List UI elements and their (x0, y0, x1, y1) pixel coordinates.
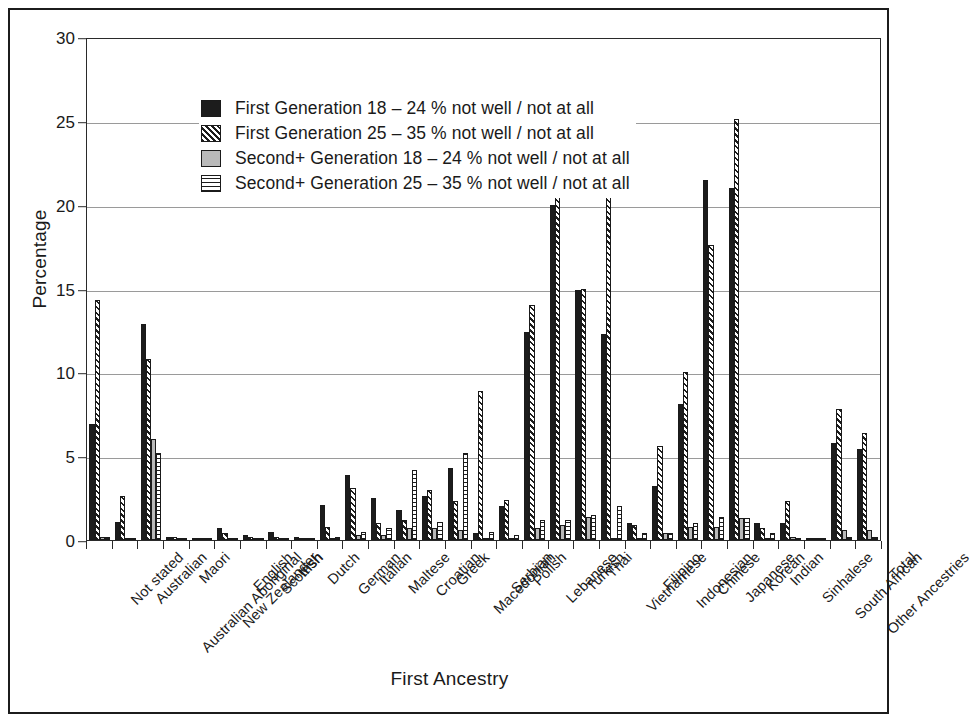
x-tick-mark (214, 541, 215, 549)
bar (617, 506, 622, 540)
bar (606, 143, 611, 540)
x-tick-mark (419, 541, 420, 549)
bar (386, 528, 391, 540)
legend-label: Second+ Generation 25 – 35 % not well / … (235, 173, 630, 194)
y-tick-label: 5 (17, 448, 87, 468)
x-tick-mark (445, 541, 446, 549)
chart-legend: First Generation 18 – 24 % not well / no… (199, 94, 636, 198)
bar (95, 300, 100, 540)
bar (361, 532, 366, 540)
x-tick-mark (599, 541, 600, 549)
bar (504, 500, 509, 540)
x-tick-mark (778, 541, 779, 549)
bar (310, 538, 315, 540)
bar (642, 533, 647, 540)
x-tick-mark (112, 541, 113, 549)
bar-group (675, 39, 701, 540)
x-tick-mark (881, 541, 882, 549)
bar (708, 245, 713, 540)
bar (591, 515, 596, 540)
bar-group (752, 39, 778, 540)
x-tick-mark (548, 541, 549, 549)
legend-swatch-second-gen-18-24 (201, 150, 221, 167)
bar (478, 391, 483, 540)
bar-group (854, 39, 880, 540)
y-tick-mark (78, 290, 87, 291)
bar (683, 372, 688, 540)
bar (284, 538, 289, 540)
bar (350, 488, 355, 540)
bar (693, 523, 698, 540)
bar (514, 535, 519, 540)
bar (412, 470, 417, 540)
plot-area: 051015202530 First Generation 18 – 24 % … (86, 38, 881, 541)
bar (719, 517, 724, 540)
x-tick-mark (573, 541, 574, 549)
bar (872, 537, 877, 540)
legend-item: Second+ Generation 18 – 24 % not well / … (201, 146, 630, 171)
y-tick-mark (78, 457, 87, 458)
bar (207, 538, 212, 540)
bar-group (726, 39, 752, 540)
x-tick-mark (189, 541, 190, 549)
bar (489, 532, 494, 540)
bar (529, 305, 534, 540)
x-tick-mark (676, 541, 677, 549)
bar (258, 538, 263, 540)
bar (836, 409, 841, 540)
x-tick-mark (830, 541, 831, 549)
x-tick-mark (753, 541, 754, 549)
x-tick-mark (701, 541, 702, 549)
y-tick-mark (78, 206, 87, 207)
legend-item: Second+ Generation 25 – 35 % not well / … (201, 171, 630, 196)
x-tick-mark (163, 541, 164, 549)
legend-item: First Generation 18 – 24 % not well / no… (201, 96, 630, 121)
bar-group (87, 39, 113, 540)
legend-label: Second+ Generation 18 – 24 % not well / … (235, 148, 630, 169)
bar (796, 538, 801, 540)
bar (182, 538, 187, 540)
x-tick-mark (855, 541, 856, 549)
x-tick-mark (137, 541, 138, 549)
bar-group (138, 39, 164, 540)
legend-label: First Generation 25 – 35 % not well / no… (235, 123, 594, 144)
bar (555, 169, 560, 540)
x-tick-mark (291, 541, 292, 549)
bar (862, 433, 867, 540)
y-axis-title: Percentage (29, 159, 51, 359)
bar (821, 538, 826, 540)
x-tick-mark (368, 541, 369, 549)
legend-item: First Generation 25 – 35 % not well / no… (201, 121, 630, 146)
bar (105, 537, 110, 540)
bar (565, 520, 570, 540)
x-tick-mark (240, 541, 241, 549)
x-tick-mark (86, 541, 87, 549)
bar (785, 501, 790, 540)
bar (156, 453, 161, 540)
bar (540, 520, 545, 540)
y-tick-label: 10 (17, 364, 87, 384)
x-tick-mark (522, 541, 523, 549)
y-tick-mark (78, 374, 87, 375)
x-axis-category-labels: Not statedAustralianAustralian Aborigina… (86, 549, 881, 664)
bar (120, 496, 125, 540)
bar-group (113, 39, 139, 540)
x-tick-mark (727, 541, 728, 549)
x-tick-mark (342, 541, 343, 549)
legend-label: First Generation 18 – 24 % not well / no… (235, 98, 594, 119)
bar-group (701, 39, 727, 540)
y-tick-label: 25 (17, 113, 87, 133)
bar (847, 537, 852, 540)
x-tick-mark (496, 541, 497, 549)
bar (463, 453, 468, 540)
x-category-label: Dutch (324, 549, 362, 587)
x-tick-mark (650, 541, 651, 549)
bar-group (829, 39, 855, 540)
bar (131, 538, 136, 540)
y-tick-label: 20 (17, 197, 87, 217)
legend-swatch-first-gen-25-35 (201, 125, 221, 142)
bar (335, 537, 340, 540)
bar-group (164, 39, 190, 540)
x-tick-mark (266, 541, 267, 549)
